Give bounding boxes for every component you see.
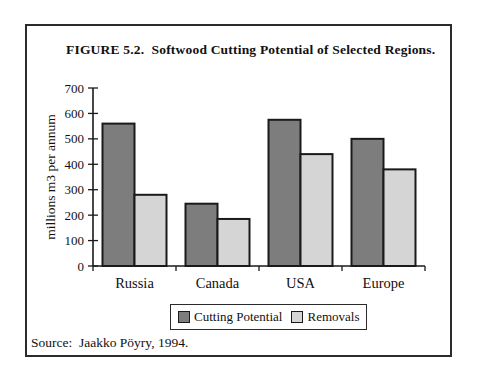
category-label-usa: USA xyxy=(286,275,316,291)
y-axis-label: millions m3 per annum xyxy=(43,114,58,240)
bar-europe-removals xyxy=(384,169,416,266)
cutting-potential-swatch xyxy=(178,311,190,323)
legend-label-cutting-potential: Cutting Potential xyxy=(194,309,282,325)
y-tick-label: 0 xyxy=(78,259,85,274)
bar-russia-removals xyxy=(135,195,167,266)
removals-swatch xyxy=(291,311,303,323)
legend-label-removals: Removals xyxy=(307,309,359,325)
bar-usa-removals xyxy=(301,154,333,266)
figure-title: FIGURE 5.2. Softwood Cutting Potential o… xyxy=(66,42,435,58)
y-tick-label: 500 xyxy=(65,131,85,146)
legend-item-cutting-potential: Cutting Potential xyxy=(178,309,282,325)
category-label-russia: Russia xyxy=(115,275,154,291)
y-tick-label: 200 xyxy=(65,208,85,223)
bar-canada-cutting-potential xyxy=(186,204,218,266)
bar-usa-cutting-potential xyxy=(269,120,301,266)
source-note: Source: Jaakko Pöyry, 1994. xyxy=(31,335,188,351)
y-tick-label: 400 xyxy=(65,157,85,172)
y-tick-label: 300 xyxy=(65,182,85,197)
bar-canada-removals xyxy=(218,219,250,266)
y-tick-label: 100 xyxy=(65,233,85,248)
bar-russia-cutting-potential xyxy=(103,124,135,266)
figure-box: 0100200300400500600700RussiaCanadaUSAEur… xyxy=(25,24,452,357)
bar-europe-cutting-potential xyxy=(352,139,384,266)
legend: Cutting Potential Removals xyxy=(170,304,367,330)
legend-item-removals: Removals xyxy=(291,309,359,325)
category-label-canada: Canada xyxy=(196,275,240,291)
y-tick-label: 700 xyxy=(65,81,85,96)
y-tick-label: 600 xyxy=(65,106,85,121)
scanned-figure-page: 0100200300400500600700RussiaCanadaUSAEur… xyxy=(0,0,477,378)
category-label-europe: Europe xyxy=(363,275,405,291)
